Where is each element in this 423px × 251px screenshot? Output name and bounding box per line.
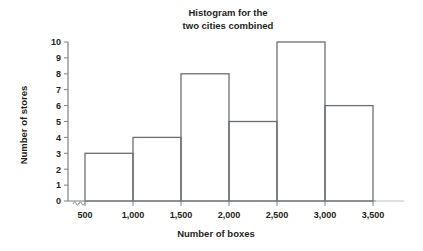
y-tick-label: 3 <box>56 149 61 159</box>
y-tick-label: 6 <box>56 101 61 111</box>
histogram-chart: Histogram for the two cities combined Nu… <box>0 0 423 251</box>
chart-title-line-2: two cities combined <box>183 20 274 31</box>
x-axis-ticks: 5001,0001,5002,0002,5003,0003,500 <box>77 201 384 220</box>
histogram-bar <box>133 137 181 201</box>
y-tick-label: 5 <box>56 117 61 127</box>
x-tick-label: 1,000 <box>122 210 145 220</box>
y-tick-label: 1 <box>56 180 61 190</box>
y-axis-ticks: 012345678910 <box>51 37 68 206</box>
x-tick-label: 3,500 <box>362 210 385 220</box>
axis-break-icon <box>73 202 85 205</box>
histogram-bar <box>85 153 133 201</box>
x-tick-label: 500 <box>77 210 92 220</box>
histogram-bar <box>229 122 277 202</box>
y-tick-label: 7 <box>56 85 61 95</box>
x-tick-label: 2,500 <box>266 210 289 220</box>
histogram-bar <box>277 42 325 201</box>
histogram-bar <box>181 74 229 201</box>
chart-title-line-1: Histogram for the <box>188 7 267 18</box>
y-tick-label: 8 <box>56 69 61 79</box>
y-axis-title: Number of stores <box>18 86 29 165</box>
histogram-bar <box>325 106 373 201</box>
x-tick-label: 3,000 <box>314 210 337 220</box>
y-tick-label: 4 <box>56 133 61 143</box>
histogram-bars <box>85 42 373 201</box>
x-tick-label: 2,000 <box>218 210 241 220</box>
x-tick-label: 1,500 <box>170 210 193 220</box>
y-tick-label: 9 <box>56 53 61 63</box>
histogram-figure: Histogram for the two cities combined Nu… <box>0 0 423 251</box>
y-tick-label: 10 <box>51 37 61 47</box>
y-tick-label: 2 <box>56 165 61 175</box>
x-axis-title: Number of boxes <box>177 228 255 239</box>
y-tick-label: 0 <box>56 196 61 206</box>
